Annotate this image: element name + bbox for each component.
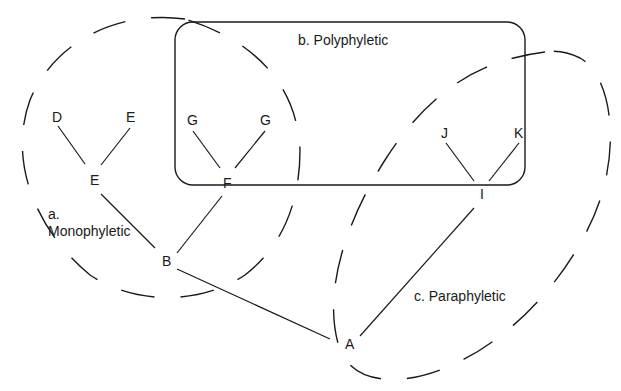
edge-g-f-left: [193, 131, 220, 168]
monophyletic-label-line1: a.: [48, 206, 60, 222]
edge-i-a: [360, 208, 474, 336]
node-e-mid: E: [90, 172, 99, 188]
node-k: K: [514, 125, 524, 141]
node-g-right: G: [260, 112, 271, 128]
paraphyletic-dashed-outline: [334, 51, 611, 379]
node-d: D: [52, 109, 62, 125]
edge-g-f-right: [235, 131, 265, 168]
node-j: J: [441, 125, 448, 141]
edge-f-b: [177, 196, 222, 253]
node-i: I: [480, 186, 484, 202]
node-a: A: [345, 336, 355, 352]
phylogeny-diagram: D E E G G F J K I B A b. Polyphyletic a.…: [0, 0, 621, 391]
edge-d-e: [58, 126, 85, 164]
node-g-left: G: [187, 112, 198, 128]
node-b: B: [162, 253, 171, 269]
paraphyletic-label: c. Paraphyletic: [414, 288, 506, 304]
edge-k-i: [489, 143, 519, 181]
edge-j-i: [446, 143, 474, 181]
node-e-top: E: [126, 109, 135, 125]
node-f: F: [223, 175, 232, 191]
edge-e-b: [101, 194, 155, 248]
edge-b-a: [177, 269, 330, 339]
polyphyletic-label: b. Polyphyletic: [298, 32, 388, 48]
edge-e-e: [101, 128, 130, 165]
monophyletic-label-line2: Monophyletic: [48, 223, 131, 239]
